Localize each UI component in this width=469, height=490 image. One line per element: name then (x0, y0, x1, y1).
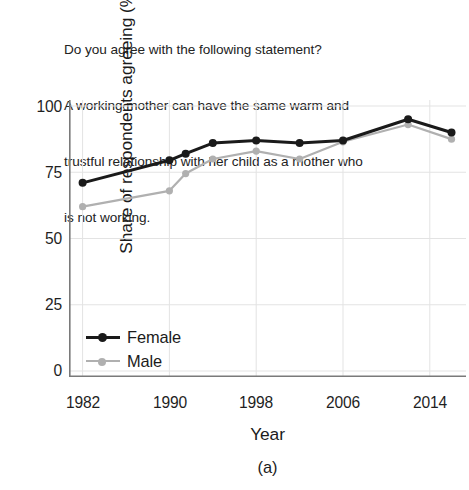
figure-panel-a: Do you agree with the following statemen… (0, 0, 469, 490)
x-tick-1990: 1990 (135, 394, 205, 412)
legend-label-male: Male (127, 352, 162, 371)
legend-marker-male-icon (86, 354, 120, 368)
y-axis-tick-labels: 100 75 50 25 0 (8, 0, 62, 490)
x-axis-tick-labels: 1982 1990 1998 2006 2014 (0, 394, 469, 416)
legend-label-female: Female (127, 328, 181, 347)
x-tick-2014: 2014 (395, 394, 465, 412)
x-tick-1998: 1998 (221, 394, 291, 412)
y-tick-25: 25 (16, 296, 62, 314)
y-tick-75: 75 (16, 164, 62, 182)
y-tick-0: 0 (16, 362, 62, 380)
series-male (79, 121, 455, 210)
legend-marker-female-icon (86, 330, 120, 344)
legend-item-male[interactable]: Male (86, 349, 236, 373)
figure-subcaption: (a) (69, 458, 466, 477)
x-tick-2006: 2006 (308, 394, 378, 412)
legend-item-female[interactable]: Female (86, 325, 236, 349)
chart-legend: Female Male (86, 325, 236, 373)
y-tick-100: 100 (16, 98, 62, 116)
x-tick-1982: 1982 (48, 394, 118, 412)
x-axis-title: Year (69, 424, 466, 445)
y-tick-50: 50 (16, 230, 62, 248)
